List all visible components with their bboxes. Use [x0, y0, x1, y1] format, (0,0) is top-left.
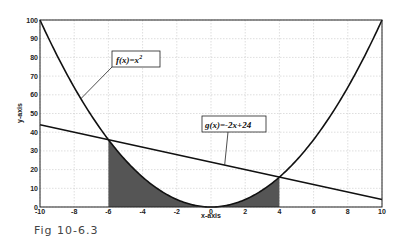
svg-text:2: 2 [243, 208, 247, 215]
y-axis-label: y-axis [16, 103, 24, 123]
f-arrow [81, 66, 113, 99]
svg-text:70: 70 [30, 73, 38, 80]
x-axis-label: x-axis [201, 212, 221, 219]
svg-text:-6: -6 [105, 208, 111, 215]
svg-text:10: 10 [378, 208, 386, 215]
svg-text:0: 0 [34, 204, 38, 211]
svg-text:100: 100 [26, 17, 38, 24]
svg-text:-4: -4 [139, 208, 145, 215]
shaded-area [108, 140, 279, 207]
svg-text:90: 90 [30, 35, 38, 42]
f-annotation: f(x)=x2 [81, 51, 160, 99]
grid-lines [40, 20, 382, 207]
svg-text:-8: -8 [71, 208, 77, 215]
svg-text:60: 60 [30, 91, 38, 98]
svg-text:50: 50 [30, 110, 38, 117]
svg-text:20: 20 [30, 166, 38, 173]
svg-text:10: 10 [30, 185, 38, 192]
svg-text:8: 8 [346, 208, 350, 215]
svg-text:80: 80 [30, 54, 38, 61]
figure-caption: Fig 10-6.3 [34, 224, 99, 237]
f-label: f(x)=x2 [116, 54, 142, 65]
g-annotation: g(x)=-2x+24 [202, 116, 266, 165]
svg-text:6: 6 [312, 208, 316, 215]
g-arrow [225, 132, 228, 165]
svg-text:-2: -2 [174, 208, 180, 215]
chart: -10-8-6-4-20246810 010203040506070809010… [0, 0, 405, 225]
svg-text:30: 30 [30, 147, 38, 154]
y-tick-labels: 0102030405060708090100 [26, 17, 38, 211]
svg-text:40: 40 [30, 129, 38, 136]
g-label: g(x)=-2x+24 [204, 120, 252, 130]
svg-text:4: 4 [277, 208, 281, 215]
